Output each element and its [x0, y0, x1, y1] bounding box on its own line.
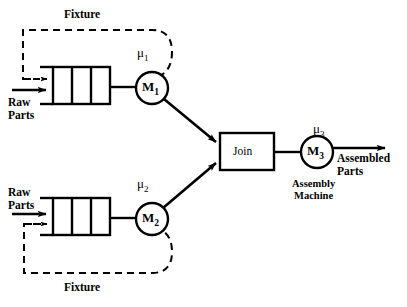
bottom-raw-parts-label-line2: Parts — [8, 199, 34, 211]
mu2-sub: 2 — [144, 184, 149, 194]
mu3-base: μ — [313, 121, 320, 136]
machine-m2-rate-label: μ2 — [137, 177, 148, 194]
top-raw-parts-label-line1: Raw — [8, 96, 30, 108]
queue-bottom — [40, 198, 110, 235]
mu1-sub: 1 — [144, 53, 149, 63]
m2-sub: 2 — [154, 218, 159, 228]
machine-m1-label: M1 — [142, 80, 159, 97]
assembly-machine-caption-line2: Machine — [294, 190, 333, 201]
m2-to-join-arrow — [163, 163, 216, 208]
machine-m1-rate-label: μ1 — [137, 46, 148, 63]
queue-top — [40, 67, 110, 104]
assembly-machine-caption-line1: Assembly — [292, 178, 335, 189]
bottom-fixture-label: Fixture — [64, 281, 100, 293]
mu2-base: μ — [137, 176, 144, 191]
m1-base: M — [142, 79, 154, 94]
mu3-sub: 3 — [320, 129, 325, 139]
m3-base: M — [307, 143, 319, 158]
m3-sub: 3 — [319, 151, 324, 161]
assembled-parts-label-line2: Parts — [337, 165, 363, 177]
mu1-base: μ — [137, 45, 144, 60]
bottom-raw-parts-label-line1: Raw — [8, 186, 30, 198]
m2-base: M — [142, 210, 154, 225]
join-label: Join — [233, 145, 252, 157]
assembled-parts-label-line1: Assembled — [337, 152, 390, 164]
machine-m2-label: M2 — [142, 211, 159, 228]
m1-sub: 1 — [154, 87, 159, 97]
m1-to-join-arrow — [164, 99, 216, 142]
top-fixture-label: Fixture — [64, 8, 100, 20]
figure-canvas: Fixture Raw Parts μ1 M1 Raw Parts μ2 M2 … — [0, 0, 407, 307]
top-raw-parts-label-line2: Parts — [8, 109, 34, 121]
machine-m3-label: M3 — [307, 144, 324, 161]
machine-m3-rate-label: μ3 — [313, 122, 324, 139]
